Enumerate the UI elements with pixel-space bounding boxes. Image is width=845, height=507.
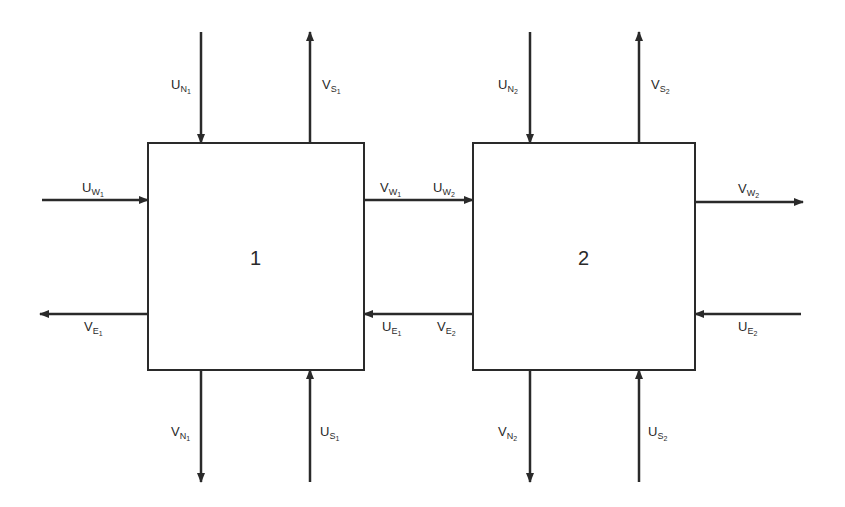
label-VW2: VW2 <box>738 182 759 199</box>
diagram-canvas <box>0 0 845 507</box>
label-VE2: VE2 <box>437 320 456 337</box>
label-VN2: VN2 <box>498 425 517 442</box>
cell-label-2: 2 <box>578 247 589 270</box>
label-UW1: UW1 <box>82 181 104 198</box>
label-VS1: VS1 <box>322 78 341 95</box>
label-UN1: UN1 <box>171 78 191 95</box>
label-UN2: UN2 <box>498 78 518 95</box>
label-VN1: VN1 <box>171 425 190 442</box>
label-US2: US2 <box>648 425 667 442</box>
label-VS2: VS2 <box>651 78 670 95</box>
label-UW2: UW2 <box>433 181 455 198</box>
label-VW1: VW1 <box>380 181 401 198</box>
label-VE1: VE1 <box>84 320 103 337</box>
cell-label-1: 1 <box>250 247 261 270</box>
label-UE2: UE2 <box>738 320 757 337</box>
label-UE1: UE1 <box>382 320 401 337</box>
label-US1: US1 <box>320 425 339 442</box>
